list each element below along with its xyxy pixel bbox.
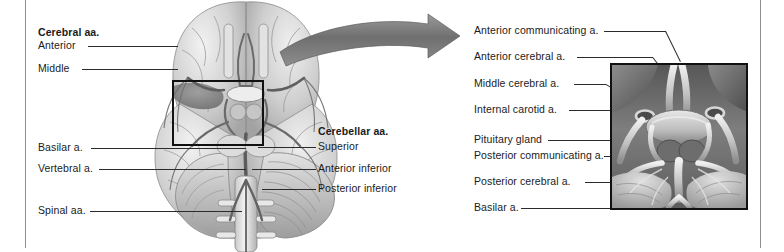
label-cerebellar-posterior-inferior: Posterior inferior: [318, 183, 397, 194]
label-anterior-communicating-artery: Anterior communicating a.: [474, 25, 598, 36]
label-cerebellar-aa-heading: Cerebellar aa.: [318, 126, 388, 137]
label-posterior-communicating-artery: Posterior communicating a.: [474, 150, 604, 161]
circle-of-willis-inset: [610, 63, 748, 210]
label-middle-cerebral-artery: Middle cerebral a.: [474, 78, 559, 89]
leader-spinal-arteries: [90, 211, 242, 212]
label-spinal-arteries: Spinal aa.: [38, 205, 86, 216]
leader-anterior-cerebral-artery: [577, 57, 653, 58]
label-basilar-artery-right: Basilar a.: [474, 202, 519, 213]
page-rule-right: [760, 0, 761, 248]
leader-cerebellar-anterior-inferior: [252, 169, 316, 170]
leader-cerebellar-superior: [258, 147, 316, 148]
label-cerebral-anterior: Anterior: [38, 40, 76, 51]
page-rule-left: [25, 0, 26, 248]
leader-anterior-communicating-artery-diagonal: [665, 31, 681, 62]
label-anterior-cerebral-artery: Anterior cerebral a.: [474, 51, 565, 62]
label-cerebellar-superior: Superior: [318, 141, 359, 152]
label-cerebellar-anterior-inferior: Anterior inferior: [318, 163, 391, 174]
leader-basilar-artery-left: [91, 148, 246, 149]
label-internal-carotid-artery: Internal carotid a.: [474, 104, 557, 115]
leader-cerebellar-posterior-inferior: [262, 189, 316, 190]
leader-vertebral-artery: [99, 169, 246, 170]
label-cerebral-aa-heading: Cerebral aa.: [38, 27, 99, 38]
magnification-arrow: [278, 8, 478, 70]
label-basilar-artery-left: Basilar a.: [38, 142, 83, 153]
label-vertebral-artery: Vertebral a.: [38, 163, 93, 174]
label-posterior-cerebral-artery: Posterior cerebral a.: [474, 176, 571, 187]
label-pituitary-gland: Pituitary gland: [474, 134, 542, 145]
leader-anterior-communicating-artery: [604, 31, 666, 32]
detail-selection-box: [172, 80, 264, 146]
leader-cerebral-anterior: [88, 46, 178, 47]
leader-middle-cerebral-artery: [574, 84, 606, 85]
label-cerebral-middle: Middle: [38, 63, 70, 74]
leader-cerebral-middle: [82, 69, 178, 70]
